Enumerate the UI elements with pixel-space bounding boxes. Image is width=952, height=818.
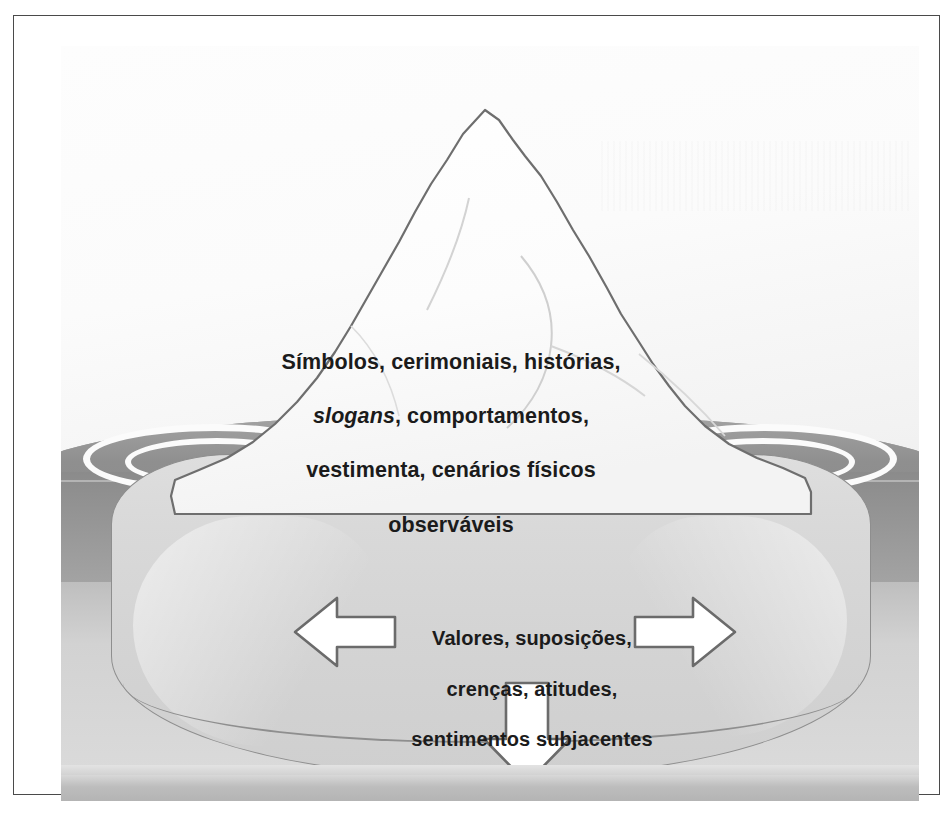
caption-line: vestimenta, cenários físicos — [221, 457, 681, 484]
caption-line-rest: , comportamentos, — [395, 404, 589, 428]
caption-line: slogans, comportamentos, — [221, 403, 681, 430]
above-water-caption: Símbolos, cerimoniais, histórias, slogan… — [221, 322, 681, 566]
caption-line: Símbolos, cerimoniais, histórias, — [221, 349, 681, 376]
caption-line: observáveis — [221, 512, 681, 539]
page-frame: Símbolos, cerimoniais, histórias, slogan… — [13, 15, 940, 795]
caption-line: crenças, atitudes, — [387, 677, 677, 702]
page: Símbolos, cerimoniais, histórias, slogan… — [0, 0, 952, 818]
caption-line: sentimentos subjacentes — [387, 727, 677, 752]
iceberg-figure: Símbolos, cerimoniais, histórias, slogan… — [61, 46, 919, 801]
arrow-left — [291, 593, 399, 671]
below-water-caption: Valores, suposições, crenças, atitudes, … — [387, 601, 677, 777]
caption-italic-word: slogans — [313, 404, 395, 428]
caption-line: Valores, suposições, — [387, 626, 677, 651]
plate-lower-edge — [61, 765, 919, 775]
plate-bottom-shadow — [61, 775, 919, 801]
